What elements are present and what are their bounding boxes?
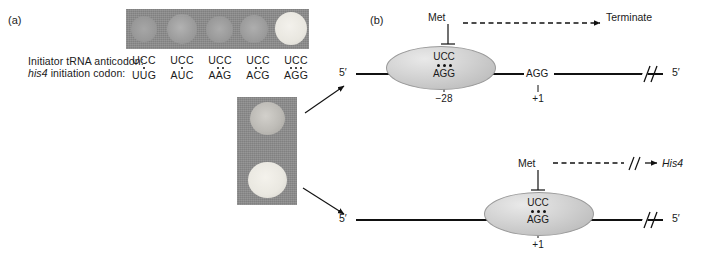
- codon-pair-1: UCC UUG: [127, 55, 161, 81]
- colony-5: [275, 12, 307, 45]
- plate-photo-side: [237, 97, 297, 205]
- codon-5: AGG: [279, 70, 313, 81]
- anticodon-2: UCC: [165, 55, 199, 66]
- mrna-break-gap-bottom: [642, 212, 648, 228]
- five-prime-left-bottom: 5′: [339, 212, 347, 224]
- met-label-bottom: Met: [518, 157, 536, 169]
- ribosome-pair-dots-bottom: [512, 210, 564, 214]
- row-label-codon-rest: initiation codon:: [48, 67, 126, 79]
- connector-arrow-bottom: [303, 188, 344, 214]
- anticodon-4: UCC: [241, 55, 275, 66]
- anticodon-3: UCC: [203, 55, 237, 66]
- anticodon-5: UCC: [279, 55, 313, 66]
- colony-side-bottom: [248, 162, 287, 198]
- mrna-break-gap-top: [642, 66, 648, 82]
- codon-pair-4: UCC ACG: [241, 55, 275, 81]
- mrna-break-slash-2-bottom: [651, 212, 657, 228]
- anticodon-1: UCC: [127, 55, 161, 66]
- mrna-break-slash-2-top: [651, 66, 657, 82]
- colony-4: [240, 15, 268, 43]
- gene-name-his4: his4: [28, 67, 48, 79]
- position-label-plus1-top: +1: [518, 93, 558, 104]
- ribosome-pair-dots-top: [418, 64, 470, 68]
- arrow-break-slash-2: [635, 157, 640, 170]
- downstream-codon-agg: AGG: [526, 68, 548, 79]
- codon-4: ACG: [241, 70, 275, 81]
- connector-arrow-top: [305, 86, 344, 113]
- position-label-minus28: −28: [424, 93, 464, 104]
- codon-3: AAG: [203, 70, 237, 81]
- ribosome-anticodon-top: UCC: [418, 52, 470, 63]
- ribosome-codon-pair-top: UCC AGG: [418, 52, 470, 79]
- mrna-break-slash-1-top: [644, 66, 650, 82]
- colony-2: [167, 14, 197, 44]
- position-label-plus1-bottom: +1: [518, 239, 558, 250]
- ribosome-anticodon-bottom: UCC: [512, 198, 564, 209]
- met-label-top: Met: [428, 11, 446, 23]
- colony-3: [206, 16, 233, 43]
- ribosome-codon-top: AGG: [418, 69, 470, 80]
- codon-pair-2: UCC AUC: [165, 55, 199, 81]
- five-prime-right-top: 5′: [672, 66, 680, 78]
- codon-pair-5: UCC AGG: [279, 55, 313, 81]
- codon-2: AUC: [165, 70, 199, 81]
- five-prime-right-bottom: 5′: [672, 212, 680, 224]
- colony-side-top: [250, 102, 285, 135]
- his4-label: His4: [662, 157, 683, 169]
- figure-vector-overlay: [0, 0, 705, 261]
- mrna-break-slash-1-bottom: [644, 212, 650, 228]
- panel-b-label: (b): [370, 14, 383, 26]
- codon-pair-3: UCC AAG: [203, 55, 237, 81]
- ribosome-codon-pair-bottom: UCC AGG: [512, 198, 564, 225]
- terminate-label: Terminate: [606, 11, 652, 23]
- panel-a-label: (a): [8, 14, 21, 26]
- five-prime-left-top: 5′: [339, 66, 347, 78]
- codon-1: UUG: [127, 70, 161, 81]
- plate-photo-top: [126, 9, 309, 49]
- colony-1: [131, 16, 157, 42]
- ribosome-codon-bottom: AGG: [512, 215, 564, 226]
- row-label-codon: his4 initiation codon:: [28, 67, 125, 79]
- arrow-break-slash-1: [629, 157, 634, 170]
